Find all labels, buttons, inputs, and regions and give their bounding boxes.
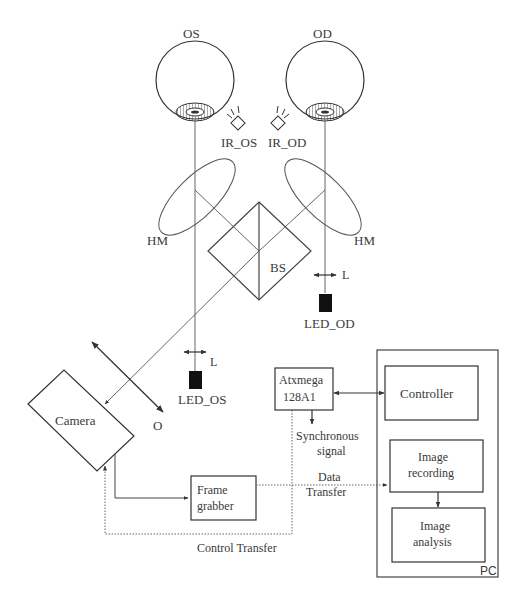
image-analysis-line1: Image (420, 519, 450, 533)
led-os-label: LED_OS (178, 392, 226, 407)
sync-signal-line2: signal (317, 444, 346, 458)
beam-splitter-label: BS (270, 260, 286, 275)
sync-signal-line1: Synchronous (296, 429, 359, 443)
eye-os-label: OS (183, 26, 200, 41)
objective-label: O (153, 418, 162, 433)
frame-grabber-line1: Frame (197, 483, 228, 497)
camera-label: Camera (55, 413, 96, 428)
hot-mirror-left-label: HM (147, 233, 168, 248)
eye-od (286, 41, 364, 121)
led-od (319, 294, 332, 312)
camera-to-frame-grabber-line (115, 454, 188, 498)
image-recording-line2: recording (408, 466, 454, 480)
ir-od-icon (271, 106, 289, 130)
objective-lens-arrow (92, 342, 163, 412)
microcontroller-line1: Atxmega (279, 373, 324, 387)
control-transfer-label: Control Transfer (197, 541, 277, 555)
lens-os-label: L (210, 355, 217, 369)
setup-diagram: OS OD IR_OS IR_OD HM HM BS (0, 0, 526, 609)
eye-od-label: OD (313, 26, 332, 41)
ir-os-label: IR_OS (221, 135, 257, 150)
data-transfer-line1: Data (318, 470, 341, 484)
ir-os-icon (227, 106, 245, 130)
image-analysis-line2: analysis (413, 535, 452, 549)
microcontroller-line2: 128A1 (283, 390, 316, 404)
led-od-label: LED_OD (304, 316, 355, 331)
data-transfer-line2: Transfer (306, 485, 346, 499)
image-recording-line1: Image (418, 450, 448, 464)
ir-od-label: IR_OD (268, 135, 306, 150)
hot-mirror-left (148, 148, 247, 247)
lens-od-label: L (342, 268, 349, 282)
pc-label: PC (480, 564, 497, 578)
eye-os (156, 41, 234, 121)
frame-grabber-line2: grabber (197, 499, 234, 513)
led-os (189, 371, 202, 389)
controller-label: Controller (400, 386, 454, 401)
hot-mirror-right (274, 148, 373, 247)
hot-mirror-right-label: HM (354, 233, 375, 248)
